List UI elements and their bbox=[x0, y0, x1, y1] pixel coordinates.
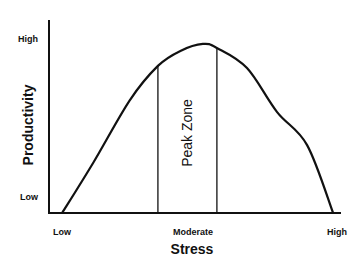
x-axis-label: Stress bbox=[171, 241, 214, 257]
x-tick-label-moderate: Moderate bbox=[173, 227, 213, 237]
y-tick-label-high: High bbox=[18, 34, 38, 44]
productivity-curve bbox=[62, 44, 333, 213]
x-tick-label-high: High bbox=[327, 227, 347, 237]
x-tick-label-low: Low bbox=[53, 227, 72, 237]
y-axis-label: Productivity bbox=[20, 84, 36, 165]
peak-zone-label: Peak Zone bbox=[179, 99, 195, 167]
stress-productivity-chart: Productivity Stress Peak Zone Low Modera… bbox=[0, 0, 359, 271]
y-tick-label-low: Low bbox=[20, 192, 39, 202]
